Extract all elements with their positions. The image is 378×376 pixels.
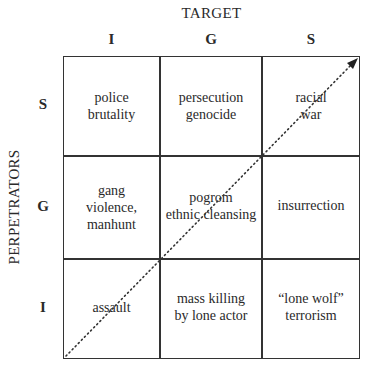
escalation-arrow-icon <box>0 0 378 376</box>
